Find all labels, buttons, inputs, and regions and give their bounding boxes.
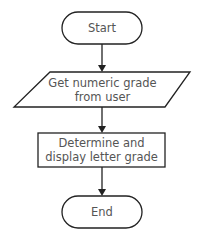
process-label-line-2: display letter grade [38,150,165,164]
arrowhead-icon [98,65,106,72]
end-label: End [62,205,142,219]
arrowhead-icon [98,126,106,133]
start-label: Start [62,21,142,35]
process-label: Determine and display letter grade [38,136,165,164]
input-label: Get numeric grade from user [30,76,175,104]
arrowhead-icon [98,189,106,196]
input-label-line-1: Get numeric grade [30,76,175,90]
input-label-line-2: from user [30,90,175,104]
process-label-line-1: Determine and [38,136,165,150]
